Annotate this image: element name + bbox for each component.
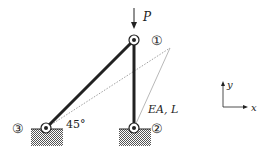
member-3-1 <box>46 40 134 128</box>
node-2-label: ② <box>151 121 163 136</box>
deformed-shape <box>46 48 170 128</box>
axes-icon <box>221 81 248 109</box>
node-1-pin <box>129 35 139 45</box>
node-2-pin <box>129 123 139 133</box>
x-axis-label: x <box>251 102 257 113</box>
y-axis-label: y <box>226 79 233 90</box>
angle-label: 45° <box>66 118 86 131</box>
load-label: P <box>142 10 152 24</box>
load-arrow-icon <box>131 8 137 29</box>
member-property-label: EA, L <box>147 103 178 116</box>
node-1-label: ① <box>151 33 163 48</box>
node-3-label: ③ <box>12 121 24 136</box>
node-3-pin <box>41 123 51 133</box>
truss-diagram: P ① ② ③ 45° EA, L y x <box>0 0 268 155</box>
